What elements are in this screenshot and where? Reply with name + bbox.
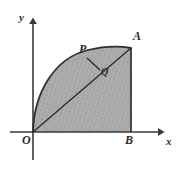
point-label-B: B bbox=[125, 134, 133, 146]
x-axis-label: x bbox=[166, 136, 172, 147]
figure-container: y x O A B P Q bbox=[0, 0, 185, 174]
point-label-P: P bbox=[79, 43, 86, 55]
point-label-Q: Q bbox=[101, 67, 108, 77]
y-axis-label: y bbox=[19, 12, 24, 23]
point-label-A: A bbox=[133, 30, 141, 42]
geometry-figure bbox=[0, 0, 185, 174]
point-label-O: O bbox=[22, 134, 31, 146]
